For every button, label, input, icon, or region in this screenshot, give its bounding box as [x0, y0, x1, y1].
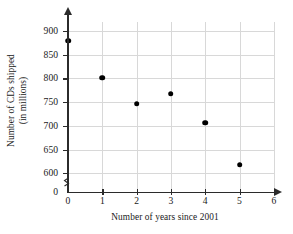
- plot-area: [68, 22, 274, 192]
- y-tick-800: [63, 78, 69, 79]
- y-tick-label-600: 600: [28, 168, 58, 178]
- y-axis-arrow-icon: [64, 7, 72, 15]
- x-axis-title: Number of years since 2001: [40, 212, 290, 222]
- y-tick-label-800: 800: [28, 73, 58, 83]
- data-point: [168, 91, 174, 97]
- y-tick-700: [63, 126, 69, 127]
- x-tick-label-6: 6: [264, 196, 284, 206]
- data-point: [100, 75, 106, 81]
- y-tick-900: [63, 31, 69, 32]
- y-tick-label-900: 900: [28, 26, 58, 36]
- x-tick-label-1: 1: [92, 196, 112, 206]
- gridline-vertical-4: [205, 22, 206, 192]
- y-tick-650: [63, 150, 69, 151]
- data-point: [202, 120, 208, 126]
- gridline-vertical-6: [274, 22, 275, 192]
- y-tick-label-0: 0: [28, 187, 58, 197]
- x-tick-label-2: 2: [127, 196, 147, 206]
- gridline-vertical-1: [102, 22, 103, 192]
- y-axis-title-line1: Number of CDs shipped: [6, 54, 18, 147]
- x-tick-label-0: 0: [58, 196, 78, 206]
- y-tick-label-850: 850: [28, 50, 58, 60]
- y-tick-750: [63, 102, 69, 103]
- y-axis-line: [67, 14, 69, 193]
- x-tick-label-4: 4: [195, 196, 215, 206]
- y-tick-label-700: 700: [28, 121, 58, 131]
- y-tick-label-750: 750: [28, 97, 58, 107]
- gridline-vertical-2: [137, 22, 138, 192]
- x-tick-label-3: 3: [161, 196, 181, 206]
- y-tick-850: [63, 55, 69, 56]
- gridline-vertical-3: [171, 22, 172, 192]
- y-tick-label-650: 650: [28, 145, 58, 155]
- y-tick-600: [63, 173, 69, 174]
- scatter-plot-figure: Number of CDs shipped (in millions): [0, 0, 293, 234]
- axis-break-icon: [62, 176, 74, 188]
- data-point: [237, 162, 243, 168]
- x-tick-label-5: 5: [230, 196, 250, 206]
- data-point: [134, 101, 140, 107]
- y-axis-title-line2: (in millions): [17, 54, 29, 147]
